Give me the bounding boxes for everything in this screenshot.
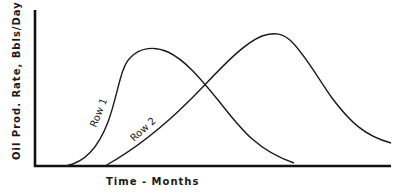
y-axis-label: Oil Prod. Rate, Bbls/Day [11, 1, 22, 160]
row-2-label: Row 2 [128, 115, 158, 143]
x-axis-label: Time - Months [106, 176, 199, 187]
row-1-label: Row 1 [88, 96, 110, 128]
production-chart: Row 1 Row 2 Oil Prod. Rate, Bbls/Day Tim… [0, 0, 406, 194]
curve-row-2 [105, 34, 391, 166]
